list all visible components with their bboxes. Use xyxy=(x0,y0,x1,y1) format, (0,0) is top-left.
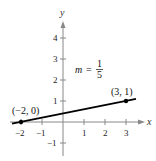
y-tick-label: 4 xyxy=(53,33,58,43)
x-axis-label: x xyxy=(146,116,152,127)
slope-annotation: m = 1 5 xyxy=(75,58,103,80)
point-label: (−2, 0) xyxy=(12,105,39,117)
x-tick-label: 3 xyxy=(124,128,129,138)
y-tick-label: −1 xyxy=(47,138,57,148)
y-axis-arrow-icon xyxy=(61,21,66,28)
y-tick-label: 2 xyxy=(53,75,58,85)
svg-text:m: m xyxy=(75,64,82,75)
x-tick-label: 2 xyxy=(103,128,108,138)
point-marker xyxy=(19,120,23,124)
point-label: (3, 1) xyxy=(111,86,133,98)
svg-text:5: 5 xyxy=(97,69,102,80)
svg-text:1: 1 xyxy=(97,58,102,69)
x-axis-arrow-icon xyxy=(138,120,145,125)
y-tick-label: 3 xyxy=(53,54,58,64)
coordinate-plane: x y −2 −1 1 2 3 4 3 2 1 −1 (−2, 0) (3, 1… xyxy=(0,0,156,161)
y-axis-label: y xyxy=(59,7,65,18)
point-marker xyxy=(124,99,128,103)
x-tick-label: −1 xyxy=(36,128,46,138)
y-tick-label: 1 xyxy=(53,96,58,106)
x-tick-label: −2 xyxy=(15,128,25,138)
svg-text:=: = xyxy=(86,64,92,75)
x-tick-label: 1 xyxy=(82,128,87,138)
